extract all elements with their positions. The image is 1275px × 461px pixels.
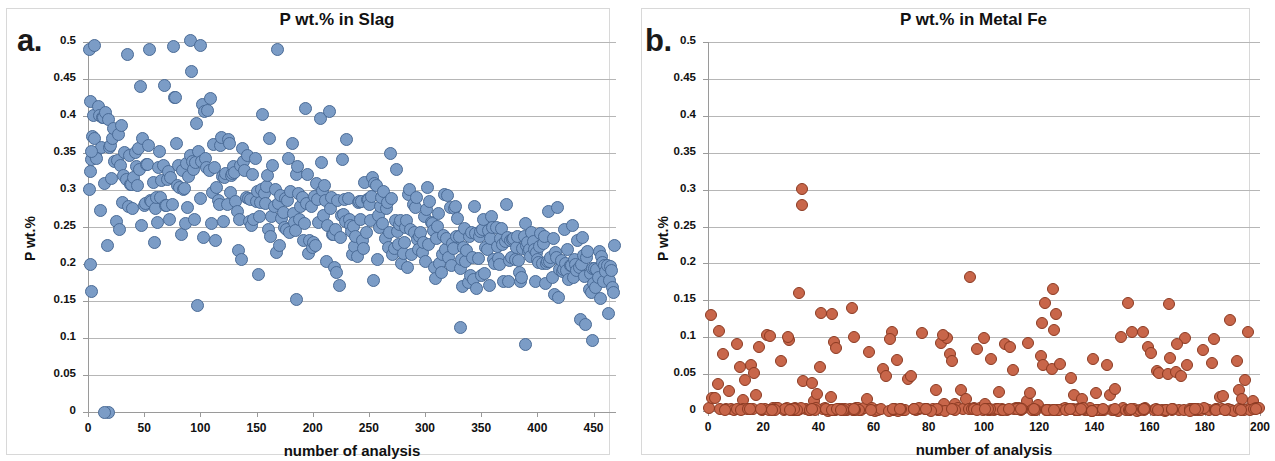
data-point	[101, 239, 114, 252]
data-point	[1048, 324, 1060, 336]
data-point	[357, 242, 370, 255]
data-point	[1115, 331, 1127, 343]
x-tick-label: 160	[1125, 420, 1175, 434]
panel-a-title: P wt.% in Slag	[0, 10, 614, 30]
data-point	[1145, 347, 1157, 359]
data-point	[1250, 403, 1262, 415]
y-tick-label: 0.45	[36, 71, 76, 83]
data-point	[946, 355, 958, 367]
data-point	[318, 179, 331, 192]
data-point	[608, 239, 621, 252]
data-point	[83, 183, 96, 196]
y-tick-label: 0	[36, 404, 76, 416]
data-point	[178, 182, 191, 195]
data-point	[1109, 383, 1121, 395]
x-tick-mark	[481, 412, 482, 417]
x-tick-label: 40	[793, 420, 843, 434]
data-point	[993, 386, 1005, 398]
data-point	[249, 152, 262, 165]
data-point	[835, 404, 847, 416]
gridline-y	[88, 153, 616, 154]
data-point	[607, 286, 620, 299]
data-point	[723, 385, 735, 397]
data-point	[753, 341, 765, 353]
data-point	[717, 348, 729, 360]
data-point	[1024, 387, 1036, 399]
data-point	[1208, 333, 1220, 345]
data-point	[1231, 355, 1243, 367]
data-point	[594, 292, 607, 305]
gridline-y	[88, 301, 616, 302]
data-point	[605, 264, 618, 277]
data-point	[1137, 326, 1149, 338]
data-point	[1097, 403, 1109, 415]
panel-a-x-axis-label: number of analysis	[88, 442, 616, 459]
data-point	[143, 43, 156, 56]
data-point	[602, 307, 615, 320]
data-point	[170, 137, 183, 150]
y-tick-label: 0.15	[656, 292, 696, 304]
gridline-y	[708, 79, 1260, 80]
data-point	[576, 231, 589, 244]
data-point	[340, 133, 353, 146]
data-point	[1065, 372, 1077, 384]
data-point	[181, 201, 194, 214]
data-point	[1163, 298, 1175, 310]
data-point	[190, 117, 203, 130]
data-point	[121, 48, 134, 61]
x-tick-label: 200	[288, 421, 338, 435]
gridline-y	[88, 190, 616, 191]
x-tick-mark	[200, 412, 201, 417]
data-point	[113, 223, 126, 236]
data-point	[290, 293, 303, 306]
x-tick-mark	[425, 412, 426, 417]
data-point	[748, 367, 760, 379]
data-point	[547, 232, 560, 245]
data-point	[135, 219, 148, 232]
data-point	[1125, 403, 1137, 415]
x-tick-label: 350	[456, 421, 506, 435]
data-point	[1087, 353, 1099, 365]
panel-b-x-axis-label: number of analysis	[708, 441, 1260, 458]
data-point	[197, 231, 210, 244]
x-tick-label: 450	[569, 421, 619, 435]
x-tick-mark	[88, 412, 89, 417]
data-point	[964, 271, 976, 283]
data-point	[483, 279, 496, 292]
y-tick-label: 0.1	[36, 330, 76, 342]
data-point	[719, 404, 731, 416]
data-point	[360, 226, 373, 239]
data-point	[454, 321, 467, 334]
data-point	[385, 192, 398, 205]
gridline-y	[708, 300, 1260, 301]
data-point	[1036, 317, 1048, 329]
data-point	[1086, 405, 1098, 417]
data-point	[286, 137, 299, 150]
data-point	[194, 39, 207, 52]
gridline-y	[708, 190, 1260, 191]
data-point	[423, 195, 436, 208]
data-point	[705, 309, 717, 321]
data-point	[298, 217, 311, 230]
x-tick-mark	[257, 412, 258, 417]
data-point	[566, 219, 579, 232]
data-point	[884, 333, 896, 345]
data-point	[1022, 337, 1034, 349]
x-tick-label: 0	[683, 420, 733, 434]
y-tick-label: 0	[656, 403, 696, 415]
data-point	[880, 370, 892, 382]
y-tick-label: 0.5	[656, 34, 696, 46]
data-point	[1047, 283, 1059, 295]
data-point	[764, 330, 776, 342]
data-point	[235, 253, 248, 266]
y-tick-label: 0.25	[656, 219, 696, 231]
data-point	[194, 192, 207, 205]
data-point	[766, 404, 778, 416]
data-point	[115, 119, 128, 132]
data-point	[1039, 297, 1051, 309]
data-point	[94, 204, 107, 217]
data-point	[830, 342, 842, 354]
data-point	[1050, 308, 1062, 320]
data-point	[775, 355, 787, 367]
